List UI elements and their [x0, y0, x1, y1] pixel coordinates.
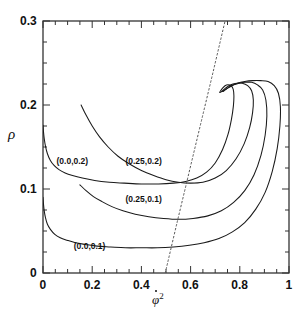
curve-annotation: (0.25,0.1)	[125, 195, 161, 204]
x-tick-label: 0.8	[231, 279, 248, 291]
y-axis-title: ρ	[8, 127, 15, 142]
x-tick-label: 0.2	[84, 279, 101, 291]
curve-02501	[80, 82, 267, 219]
axes-frame	[43, 21, 289, 273]
curve-annotation: (0.25,0.2)	[125, 157, 161, 166]
y-tick-label: 0	[30, 267, 37, 279]
x-tick-label: 0.4	[133, 279, 150, 291]
figure-root: ρ φ2 00.20.40.60.8100.10.20.3 (0.0,0.2)(…	[0, 0, 306, 316]
y-tick-label: 0.1	[20, 183, 37, 195]
curve-annotation: (0.0,0.2)	[57, 157, 89, 166]
data-curves	[43, 21, 280, 273]
curve-annotation: (0.0,0.1)	[74, 242, 106, 251]
x-tick-label: 1	[286, 279, 293, 291]
y-tick-label: 0.2	[20, 99, 37, 111]
curve-separatrix	[165, 21, 225, 273]
x-tick-label: 0	[40, 279, 47, 291]
curve-02502	[81, 83, 253, 183]
x-axis-title: φ2	[152, 292, 164, 306]
axis-ticks	[43, 21, 289, 273]
x-tick-label: 0.6	[182, 279, 199, 291]
y-tick-label: 0.3	[20, 15, 37, 27]
